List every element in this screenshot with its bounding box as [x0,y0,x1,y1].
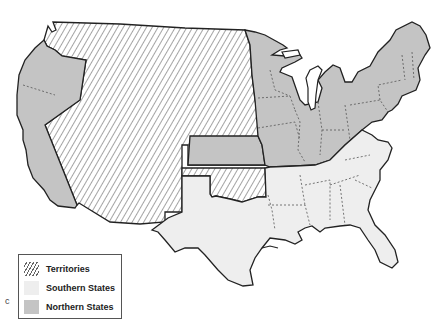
hatch-swatch-icon [24,262,39,276]
stray-mark: c [5,296,10,306]
kansas-northern-state [188,136,265,165]
legend-label: Northern States [46,302,114,312]
map-legend: Territories Southern States Northern Sta… [18,254,122,319]
legend-label: Territories [46,264,90,274]
legend-item-territories: Territories [24,259,116,278]
midwest-northeast-northern-states [245,22,430,167]
dark-gray-swatch-icon [24,300,39,314]
legend-label: Southern States [46,283,115,293]
legend-item-southern: Southern States [24,278,116,297]
light-gray-swatch-icon [24,281,39,295]
legend-item-northern: Northern States [24,297,116,316]
